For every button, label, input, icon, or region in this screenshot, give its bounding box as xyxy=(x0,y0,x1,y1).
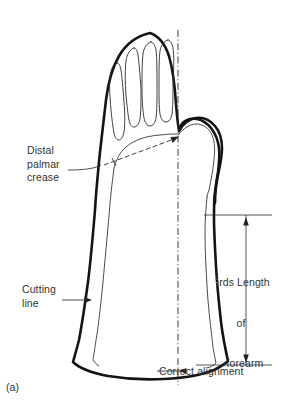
glove-outer-outline xyxy=(73,33,228,379)
figure-caption: (a) xyxy=(6,381,19,395)
thumb-outer-outline xyxy=(179,118,222,203)
forearm-length-line-2: of xyxy=(216,317,282,331)
label-forearm-length: 23rds Length of forearm xyxy=(216,249,282,398)
label-cutting-line: Cutting line xyxy=(22,283,92,310)
forearm-length-line-1: rds Length xyxy=(219,276,270,288)
finger-outline-ring xyxy=(125,48,141,127)
dimension-arrowhead-top xyxy=(243,217,249,226)
figure-root: Distal palmar crease Cutting line Correc… xyxy=(0,0,282,404)
distal-palmar-crease-line xyxy=(104,139,174,165)
palm-inner-contour xyxy=(114,134,179,168)
finger-outline-middle xyxy=(142,42,157,126)
thumb-inner-contour xyxy=(179,124,215,197)
forearm-length-line-3: forearm xyxy=(216,357,282,371)
label-distal-palmar-crease: Distal palmar crease xyxy=(27,144,105,185)
